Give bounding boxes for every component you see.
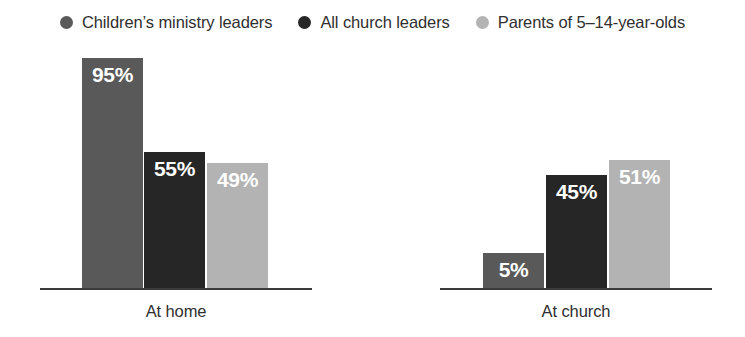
bar-at-church-parents[interactable]: 51% [609, 160, 670, 288]
bar-value-label: 45% [546, 181, 607, 202]
bar-chart-plot-area: 95%55%49%At home5%45%51%At church [0, 0, 745, 337]
bar-value-label: 51% [609, 166, 670, 187]
bar-group-2: 5%45%51%At church [0, 0, 745, 337]
axis-line-2 [440, 288, 712, 290]
bar-at-church-all-church-leaders[interactable]: 45% [546, 175, 607, 288]
category-label-2: At church [440, 303, 712, 320]
bar-value-label: 5% [483, 259, 544, 280]
bar-at-church-childrens-ministry-leaders[interactable]: 5% [483, 253, 544, 288]
